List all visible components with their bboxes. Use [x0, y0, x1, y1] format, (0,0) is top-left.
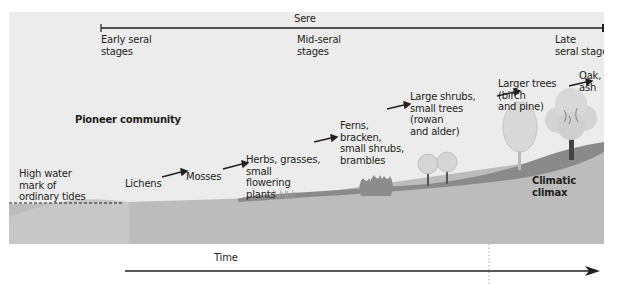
- fern-icon: [359, 175, 392, 196]
- time-label: Time: [214, 252, 238, 264]
- stage-herbs: Herbs, grasses, small flowering plants: [246, 154, 320, 200]
- stage-large-shrubs: Large shrubs, small trees (rowan and ald…: [410, 91, 475, 137]
- pioneer-community-label: Pioneer community: [75, 114, 181, 126]
- stage-larger-trees: Larger trees (birch and pine): [498, 78, 556, 113]
- stage-mosses: Mosses: [186, 171, 221, 183]
- stage-ferns: Ferns, bracken, small shrubs, brambles: [340, 120, 404, 166]
- stage-lichens: Lichens: [125, 178, 162, 190]
- high-water-label: High water mark of ordinary tides: [19, 168, 85, 203]
- stage-oak-ash: Oak, ash: [579, 70, 601, 93]
- sere-title: Sere: [294, 13, 316, 25]
- diagram-panel: Sere Early seral stages Mid-seral stages…: [9, 12, 604, 244]
- time-arrow-head-icon: [585, 266, 600, 276]
- early-seral-label: Early seral stages: [101, 34, 152, 57]
- mid-seral-label: Mid-seral stages: [297, 34, 341, 57]
- climatic-climax-label: Climatic climax: [532, 175, 576, 198]
- late-seral-label: Late seral stages: [555, 34, 604, 57]
